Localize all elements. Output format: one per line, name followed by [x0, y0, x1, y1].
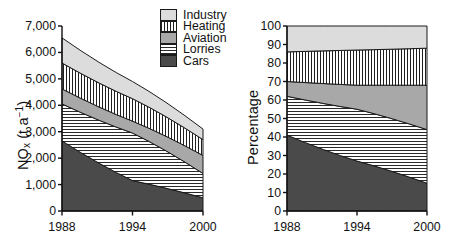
y-tick-label: 6,000	[18, 46, 56, 58]
legend-item-cars: Cars	[160, 55, 232, 67]
x-tick-label: 1988	[32, 221, 92, 233]
y-tick-label: 20	[243, 168, 281, 180]
y-tick-label: 100	[243, 20, 281, 32]
legend-label: Cars	[183, 55, 209, 67]
y-tick-label: 50	[243, 113, 281, 125]
y-tick-label: 30	[243, 150, 281, 162]
legend-swatch-industry	[160, 9, 177, 21]
y-tick-label: 7,000	[18, 20, 56, 32]
legend-swatch-lorries	[160, 44, 177, 56]
figure-root: NOx (t a−1) 01,0002,0003,0004,0005,0006,…	[0, 0, 457, 251]
y-tick-label: 80	[243, 57, 281, 69]
y-tick-label: 70	[243, 76, 281, 88]
y-tick-label: 90	[243, 39, 281, 51]
x-tick-label: 1988	[257, 221, 317, 233]
y-tick-label: 0	[243, 205, 281, 217]
y-tick-label: 3,000	[18, 126, 56, 138]
y-tick-label: 1,000	[18, 179, 56, 191]
area-series-industry	[287, 26, 427, 52]
y-tick-label: 10	[243, 187, 281, 199]
legend-swatch-cars	[160, 55, 177, 67]
legend-swatch-heating	[160, 21, 177, 33]
y-tick-label: 4,000	[18, 99, 56, 111]
legend: IndustryHeatingAviationLorriesCars	[160, 9, 232, 67]
y-tick-label: 40	[243, 131, 281, 143]
x-tick-label: 1994	[327, 221, 387, 233]
y-tick-label: 5,000	[18, 73, 56, 85]
y-tick-label: 0	[18, 205, 56, 217]
area-series-heating	[287, 48, 427, 85]
y-tick-label: 2,000	[18, 152, 56, 164]
x-tick-label: 2000	[397, 221, 457, 233]
chart-panel-percentage: Percentage 0102030405060708090100 198819…	[227, 0, 457, 251]
y-tick-label: 60	[243, 94, 281, 106]
x-tick-label: 1994	[103, 221, 163, 233]
x-tick-label: 2000	[173, 221, 233, 233]
legend-swatch-aviation	[160, 32, 177, 44]
